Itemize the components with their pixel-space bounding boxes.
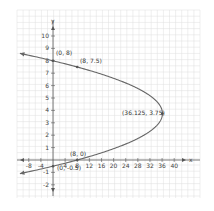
data-point	[76, 159, 79, 162]
label-point-0-8: (0, 8)	[56, 49, 72, 56]
curve-top-arrow-icon	[20, 52, 25, 56]
data-point	[52, 165, 55, 168]
svg-text:5: 5	[45, 94, 49, 101]
label-point-8-0: (8, 0)	[70, 150, 86, 157]
y-axis-name: y	[51, 17, 55, 25]
label-vertex: (36.125, 3.75)	[122, 109, 165, 116]
svg-text:40: 40	[170, 162, 178, 169]
svg-text:4: 4	[45, 106, 49, 113]
svg-text:10: 10	[41, 32, 49, 39]
svg-text:-1: -1	[43, 168, 49, 175]
svg-text:-8: -8	[26, 162, 32, 169]
data-point	[76, 66, 79, 69]
svg-text:24: 24	[122, 162, 130, 169]
x-axis-name: x	[189, 156, 193, 163]
svg-text:7: 7	[45, 69, 49, 76]
svg-text:12: 12	[86, 162, 94, 169]
data-point	[52, 60, 55, 63]
svg-text:6: 6	[45, 82, 49, 89]
svg-text:-2: -2	[43, 181, 49, 188]
svg-text:20: 20	[110, 162, 118, 169]
parabola-chart: x y -8-4481216202428323640 -2-1123456789…	[0, 0, 214, 211]
y-axis-up-arrow-icon	[51, 26, 55, 30]
svg-text:3: 3	[45, 119, 49, 126]
label-point-8-7.5: (8, 7.5)	[80, 57, 102, 64]
svg-text:2: 2	[45, 131, 49, 138]
svg-text:1: 1	[45, 144, 49, 151]
svg-text:28: 28	[134, 162, 142, 169]
svg-text:36: 36	[158, 162, 166, 169]
label-point-0-neg0.5: (0, -0.5)	[57, 164, 81, 171]
svg-text:32: 32	[146, 162, 154, 169]
svg-text:16: 16	[98, 162, 106, 169]
svg-text:9: 9	[45, 44, 49, 51]
